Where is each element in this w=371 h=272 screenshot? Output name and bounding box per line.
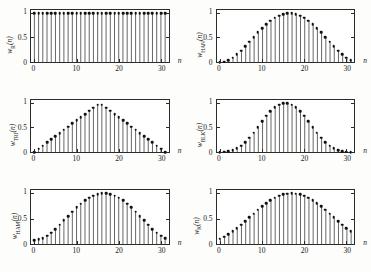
stem-marker [332,147,335,150]
stem-marker [316,27,319,30]
stem-marker [349,59,352,62]
stem-marker [227,150,230,153]
stem-marker [316,202,319,205]
stem-marker [341,223,344,226]
stem-marker [341,53,344,56]
stem-marker [54,12,57,15]
x-tick-label: 0 [32,65,36,73]
stem-marker [307,19,310,22]
stem-marker [46,141,49,144]
y-tick-mark-right [166,152,169,153]
stem-marker [130,125,133,128]
x-tick-label: 20 [115,65,123,73]
stem-marker [273,106,276,109]
x-tick-label: 20 [301,247,309,255]
stem-marker [257,31,260,34]
stem-marker [299,110,302,113]
stem-marker [290,192,293,195]
x-tick-label: 0 [32,247,36,255]
x-tick-label: 20 [301,65,309,73]
stem-marker [240,223,243,226]
y-tick-mark [217,244,220,245]
y-tick-mark [217,193,220,194]
y-tick-label: 0 [23,241,29,249]
stem-marker [244,45,247,48]
stem-marker [231,149,234,152]
stem-marker [155,144,158,147]
stem-marker [244,141,247,144]
stem-marker [282,193,285,196]
stem-marker [122,199,125,202]
stem-marker [134,12,137,15]
stem-marker [130,206,133,209]
stem-marker [130,12,133,15]
x-tick-label: 20 [301,155,309,163]
x-tick-mark [346,59,347,62]
stem-marker [126,12,129,15]
y-tick-mark-right [351,103,354,104]
y-axis-label-subscript: K [196,226,202,230]
y-tick-mark-right [351,244,354,245]
stem-marker [79,202,82,205]
plot-area-kaiser [216,189,356,245]
stem-marker [244,220,247,223]
y-tick-mark [217,62,220,63]
stem-marker [269,110,272,113]
stem-marker [273,17,276,20]
stem-marker [324,36,327,39]
stem-marker [337,49,340,52]
stem-marker [46,234,49,237]
stem-marker [311,126,314,129]
stem-marker [223,235,226,238]
stem-marker [71,210,74,213]
stem-marker [349,230,352,233]
stem-marker [117,196,120,199]
y-axis-label-main: w [195,53,204,58]
x-tick-mark [161,149,162,152]
stem-marker [42,12,45,15]
y-tick-label: 0.5 [18,215,29,223]
stem-marker [50,12,53,15]
stem-marker [265,114,268,117]
stem-marker [261,205,264,208]
stem-marker [151,12,154,15]
stem-marker [105,12,108,15]
x-tick-label: 10 [258,65,266,73]
y-tick-label: 1 [23,188,29,196]
x-tick-mark [34,241,35,244]
stem-marker [320,205,323,208]
y-tick-mark [31,127,34,128]
stem-series-rectangular [31,10,169,62]
stem-marker [307,196,310,199]
y-tick-mark-right [351,219,354,220]
stem-marker [328,212,331,215]
y-tick-mark-right [166,219,169,220]
plot-area-hann [216,9,356,63]
x-tick-mark [220,149,221,152]
stem-marker [71,12,74,15]
x-tick-mark [346,149,347,152]
y-tick-mark [217,13,220,14]
x-tick-mark [77,241,78,244]
y-tick-mark-right [351,62,354,63]
stem-marker [54,228,57,231]
stem-marker [134,210,137,213]
x-tick-label: 30 [344,247,352,255]
stem-marker [50,231,53,234]
x-axis-label: n [178,239,182,247]
stem-marker [122,119,125,122]
y-axis-label-subscript: BLK [199,131,205,142]
stem-marker [160,12,163,15]
stem-marker [252,131,255,134]
x-tick-mark [220,59,221,62]
stem-marker [231,56,234,59]
stem-marker [235,147,238,150]
y-tick-label: 0 [23,59,29,67]
stem-marker [88,110,91,113]
x-axis-label: n [363,147,367,155]
stem-marker [332,216,335,219]
x-tick-mark [161,241,162,244]
y-tick-mark-right [166,127,169,128]
y-axis-label-subscript: HAN [199,41,205,53]
stem-marker [113,12,116,15]
